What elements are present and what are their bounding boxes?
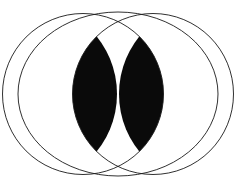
geometric-figure-svg (0, 0, 235, 191)
center-dot (117, 97, 119, 99)
figure-canvas (0, 0, 235, 191)
